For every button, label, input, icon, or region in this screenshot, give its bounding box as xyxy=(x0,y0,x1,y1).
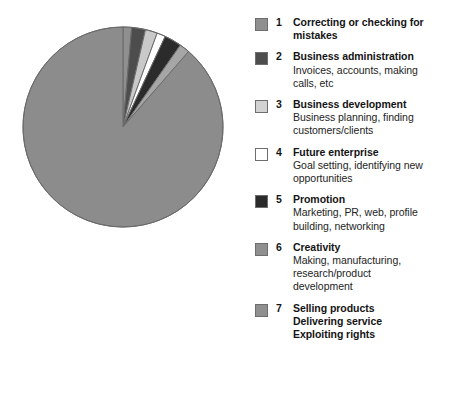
pie-chart-graphic xyxy=(22,24,228,230)
legend-description-line: research/product xyxy=(293,267,445,280)
legend-swatch-4 xyxy=(255,148,268,161)
legend-title-line: mistakes xyxy=(293,29,445,42)
legend-item[interactable]: 3Business developmentBusiness planning, … xyxy=(255,98,445,138)
legend-swatch-2 xyxy=(255,52,268,65)
legend-item[interactable]: 7Selling productsDelivering serviceExplo… xyxy=(255,302,445,342)
legend-text-block: CreativityMaking, manufacturing,research… xyxy=(293,241,445,294)
legend-item[interactable]: 2Business administrationInvoices, accoun… xyxy=(255,50,445,90)
legend-text-block: Selling productsDelivering serviceExploi… xyxy=(293,302,445,342)
legend-number: 1 xyxy=(276,16,282,29)
legend-description-line: Marketing, PR, web, profile xyxy=(293,206,445,219)
legend-title-line: Business administration xyxy=(293,50,445,63)
legend-text-block: Business administrationInvoices, account… xyxy=(293,50,445,90)
legend-description-line: building, networking xyxy=(293,220,445,233)
legend-text-block: Correcting or checking formistakes xyxy=(293,16,445,42)
legend-number: 6 xyxy=(276,241,282,254)
legend-title-line: Selling products xyxy=(293,302,445,315)
chart-legend: 1Correcting or checking formistakes2Busi… xyxy=(255,16,445,349)
legend-title-line: Exploiting rights xyxy=(293,328,445,341)
legend-item[interactable]: 6CreativityMaking, manufacturing,researc… xyxy=(255,241,445,294)
pie-svg xyxy=(22,24,228,230)
legend-number: 2 xyxy=(276,50,282,63)
legend-swatch-1 xyxy=(255,18,268,31)
legend-title-line: Business development xyxy=(293,98,445,111)
legend-description-line: development xyxy=(293,280,445,293)
legend-description-line: Business planning, finding xyxy=(293,111,445,124)
legend-swatch-5 xyxy=(255,195,268,208)
legend-title-line: Promotion xyxy=(293,193,445,206)
legend-item[interactable]: 5PromotionMarketing, PR, web, profilebui… xyxy=(255,193,445,233)
legend-description-line: Goal setting, identifying new xyxy=(293,159,445,172)
legend-number: 4 xyxy=(276,146,282,159)
legend-number: 5 xyxy=(276,193,282,206)
legend-description-line: Making, manufacturing, xyxy=(293,254,445,267)
legend-title-line: Creativity xyxy=(293,241,445,254)
legend-text-block: Business developmentBusiness planning, f… xyxy=(293,98,445,138)
pie-chart-page: 1Correcting or checking formistakes2Busi… xyxy=(0,0,451,393)
legend-swatch-6 xyxy=(255,243,268,256)
legend-item[interactable]: 4Future enterpriseGoal setting, identify… xyxy=(255,146,445,186)
legend-description-line: customers/clients xyxy=(293,124,445,137)
legend-text-block: PromotionMarketing, PR, web, profilebuil… xyxy=(293,193,445,233)
legend-number: 7 xyxy=(276,302,282,315)
legend-title-line: Correcting or checking for xyxy=(293,16,445,29)
legend-description-line: Invoices, accounts, making xyxy=(293,64,445,77)
legend-title-line: Future enterprise xyxy=(293,146,445,159)
legend-description-line: opportunities xyxy=(293,172,445,185)
legend-item[interactable]: 1Correcting or checking formistakes xyxy=(255,16,445,42)
pie-slices-group xyxy=(23,27,223,227)
legend-number: 3 xyxy=(276,98,282,111)
legend-title-line: Delivering service xyxy=(293,315,445,328)
pie-slice-7[interactable] xyxy=(23,27,223,227)
legend-swatch-3 xyxy=(255,100,268,113)
legend-swatch-7 xyxy=(255,304,268,317)
legend-description-line: calls, etc xyxy=(293,77,445,90)
legend-text-block: Future enterpriseGoal setting, identifyi… xyxy=(293,146,445,186)
